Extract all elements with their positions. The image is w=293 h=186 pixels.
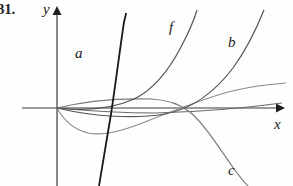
curve-c: [57, 99, 248, 186]
curve-label-c: c: [228, 163, 235, 178]
curve-label-a: a: [75, 46, 83, 61]
graph-figure: 31. y x a f b c: [0, 0, 293, 186]
y-axis: [53, 6, 62, 186]
y-axis-label: y: [43, 2, 50, 17]
curve-b: [57, 10, 264, 117]
x-axis-arrowhead: [276, 104, 285, 113]
x-axis-label: x: [274, 117, 281, 132]
curve-label-f: f: [169, 20, 173, 35]
curve-label-b: b: [228, 35, 236, 50]
y-axis-arrowhead: [53, 6, 62, 15]
coordinate-plot-svg: [0, 0, 293, 186]
